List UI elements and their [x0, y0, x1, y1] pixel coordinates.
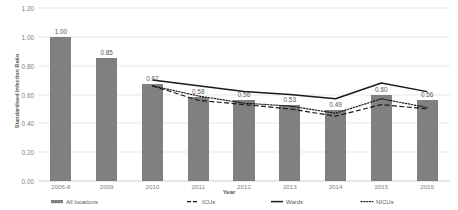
bar-value-label: 0.49	[329, 101, 341, 108]
y-tick-label: 0.00	[22, 178, 34, 185]
dotted-line-icon	[360, 197, 374, 206]
chart-container: Standardised Infection Ratio 0.000.200.4…	[0, 0, 458, 210]
y-tick-label: 1.20	[22, 5, 34, 12]
bar-value-label: 0.67	[146, 75, 158, 82]
bar-value-label: 0.56	[421, 91, 433, 98]
y-tick-label: 0.80	[22, 62, 34, 69]
y-tick-label: 0.40	[22, 120, 34, 127]
y-axis-tick-labels: 0.000.200.400.600.801.001.20	[0, 0, 36, 186]
legend-label: All locations	[66, 199, 98, 205]
y-tick-label: 0.20	[22, 149, 34, 156]
y-tick-label: 0.60	[22, 91, 34, 98]
legend-item-icus[interactable]: ICUs	[186, 197, 215, 206]
bar-value-label: 0.58	[192, 88, 204, 95]
dashed-line-icon	[186, 197, 200, 206]
chart-legend: All locationsICUsWardsNICUs	[38, 197, 450, 209]
legend-item-wards[interactable]: Wards	[270, 197, 303, 206]
legend-label: NICUs	[376, 199, 394, 205]
x-axis-title: Year	[0, 189, 458, 195]
bar-swatch-icon	[50, 197, 64, 206]
bar-value-label: 0.53	[284, 96, 296, 103]
legend-label: ICUs	[202, 199, 215, 205]
bar-value-label: 0.56	[238, 91, 250, 98]
y-tick-label: 1.00	[22, 33, 34, 40]
bar-value-label: 0.60	[375, 86, 387, 93]
legend-item-nicus[interactable]: NICUs	[360, 197, 394, 206]
bar-value-label: 1.00	[55, 28, 67, 35]
solid-line-icon	[270, 197, 284, 206]
legend-item-all-locations[interactable]: All locations	[50, 197, 98, 206]
plot-area: 1.000.850.670.580.560.530.490.600.56	[38, 8, 450, 181]
bar-value-label: 0.85	[100, 49, 112, 56]
legend-label: Wards	[286, 199, 303, 205]
